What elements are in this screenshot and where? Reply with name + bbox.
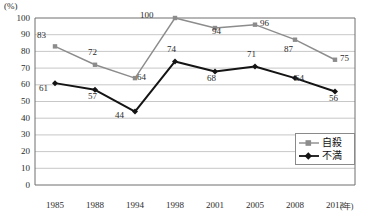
x-axis-tick-label: 1998 xyxy=(153,201,197,210)
y-axis-tick-label: 70 xyxy=(2,64,30,73)
data-point xyxy=(333,58,337,62)
data-label: 100 xyxy=(140,11,154,20)
y-axis-tick-label: 60 xyxy=(2,80,30,89)
y-axis-tick-label: 90 xyxy=(2,30,30,39)
y-axis-tick-label: 50 xyxy=(2,97,30,106)
data-point xyxy=(53,44,57,48)
x-axis-tick-label: 2005 xyxy=(233,201,277,210)
data-point xyxy=(253,22,257,26)
x-axis-tick-label: 1985 xyxy=(33,201,77,210)
y-axis-tick-label: 10 xyxy=(2,164,30,173)
data-label: 94 xyxy=(212,27,221,36)
y-axis-tick-label: 100 xyxy=(2,14,30,23)
data-label: 61 xyxy=(39,84,48,93)
series-line-suicide xyxy=(55,18,335,78)
legend-item-suicide[interactable]: 自殺 xyxy=(299,136,351,149)
legend-label-dissatisfaction: 不満 xyxy=(322,151,342,161)
data-point xyxy=(52,80,58,86)
data-label: 83 xyxy=(37,31,46,40)
data-label: 87 xyxy=(284,45,293,54)
y-axis-tick-label: 80 xyxy=(2,47,30,56)
legend-item-dissatisfaction[interactable]: 不満 xyxy=(299,149,351,162)
data-point xyxy=(173,16,177,20)
data-label: 56 xyxy=(329,94,338,103)
y-axis-tick-label: 0 xyxy=(2,181,30,190)
chart-legend: 自殺 不満 xyxy=(295,133,355,165)
chart-container: (%) 1009080706050403020100 1985198819941… xyxy=(0,0,366,220)
data-label: 64 xyxy=(137,73,146,82)
data-label: 72 xyxy=(88,48,97,57)
legend-marker-suicide-icon xyxy=(299,138,319,148)
legend-marker-dissatisfaction-icon xyxy=(299,151,319,161)
data-label: 57 xyxy=(88,92,97,101)
data-point xyxy=(93,63,97,67)
data-label: 75 xyxy=(340,54,349,63)
data-point xyxy=(293,38,297,42)
y-axis-tick-label: 20 xyxy=(2,147,30,156)
data-label: 64 xyxy=(295,74,304,83)
series-line-dissatisfaction xyxy=(55,61,335,111)
data-point xyxy=(252,63,258,69)
x-axis-tick-label: 2008 xyxy=(273,201,317,210)
data-label: 44 xyxy=(115,111,124,120)
legend-label-suicide: 自殺 xyxy=(322,138,342,148)
data-label: 74 xyxy=(167,45,176,54)
data-label: 96 xyxy=(260,19,269,28)
x-axis-unit-label: (年) xyxy=(340,203,353,211)
x-axis-tick-label: 2001 xyxy=(193,201,237,210)
y-axis-tick-label: 30 xyxy=(2,130,30,139)
y-axis-tick-label: 40 xyxy=(2,114,30,123)
x-axis-tick-label: 1994 xyxy=(113,201,157,210)
data-label: 68 xyxy=(207,74,216,83)
x-axis-tick-label: 1988 xyxy=(73,201,117,210)
y-axis-unit-label: (%) xyxy=(4,1,18,11)
data-label: 71 xyxy=(247,50,256,59)
